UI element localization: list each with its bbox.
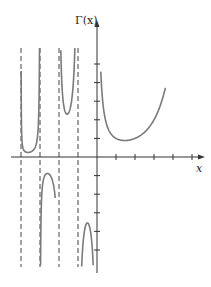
gamma-curve-branch <box>21 48 39 152</box>
y-axis-label: Γ(x) <box>75 14 97 27</box>
x-axis-arrow-icon <box>198 155 205 160</box>
gamma-curve-branch <box>101 72 166 141</box>
gamma-curve-branch <box>82 223 94 267</box>
gamma-curve-branch <box>61 48 75 114</box>
x-axis-label: x <box>196 162 203 175</box>
gamma-curve-branch <box>41 174 56 266</box>
gamma-function-plot: Γ(x) x <box>0 0 211 287</box>
